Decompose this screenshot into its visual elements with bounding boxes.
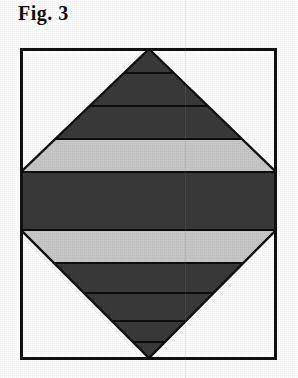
figure-caption: Fig. 3 (18, 1, 69, 25)
figure-plate (20, 48, 277, 360)
band-6-light (20, 230, 277, 263)
band-4-light (20, 139, 277, 172)
band-5-dark (20, 172, 277, 230)
banded-rhombus-diagram (20, 48, 277, 360)
figure-root: Fig. 3 (0, 0, 298, 378)
